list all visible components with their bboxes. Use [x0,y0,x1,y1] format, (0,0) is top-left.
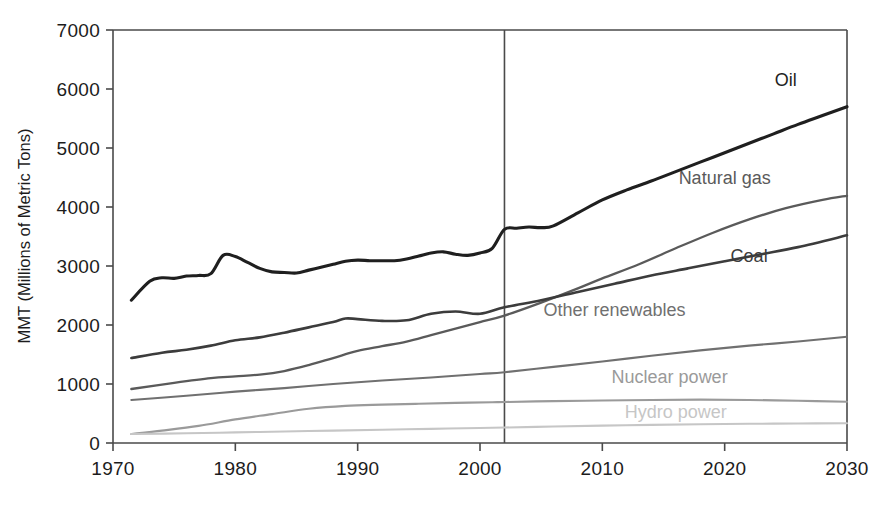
series-line-natural-gas [131,196,847,389]
x-tick-label: 1970 [91,458,134,479]
series-label-group: OilNatural gasCoalOther renewablesNuclea… [544,70,797,422]
y-tick-label: 2000 [57,315,100,336]
series-label-other-renewables: Other renewables [544,300,686,320]
y-tick-label: 4000 [57,197,100,218]
x-tick-label: 2030 [825,458,868,479]
y-tick-label: 7000 [57,20,100,41]
y-axis-group: 01000200030004000500060007000 [57,20,113,454]
series-label-nuclear-power: Nuclear power [612,367,728,387]
y-tick-group: 01000200030004000500060007000 [57,20,113,454]
x-tick-label: 1990 [336,458,379,479]
series-group [131,107,847,434]
series-line-oil [131,107,847,301]
series-line-other-renewables [131,337,847,400]
series-label-oil: Oil [775,70,797,90]
series-label-coal: Coal [731,246,768,266]
chart-canvas: 01000200030004000500060007000 1970198019… [0,0,883,508]
x-axis-group: 1970198019902000201020202030 [91,443,868,479]
y-tick-label: 6000 [57,79,100,100]
y-tick-label: 5000 [57,138,100,159]
series-label-natural-gas: Natural gas [679,168,771,188]
series-line-nuclear-power [131,400,847,434]
plot-frame [113,30,847,443]
y-tick-label: 3000 [57,256,100,277]
x-tick-label: 2000 [458,458,501,479]
y-tick-label: 1000 [57,374,100,395]
x-tick-label: 2010 [581,458,624,479]
y-axis-title: MMT (Millions of Metric Tons) [15,129,33,344]
y-tick-label: 0 [89,433,100,454]
series-label-hydro-power: Hydro power [625,402,727,422]
x-tick-group: 1970198019902000201020202030 [91,443,868,479]
x-tick-label: 2020 [703,458,746,479]
x-tick-label: 1980 [214,458,257,479]
energy-consumption-chart: 01000200030004000500060007000 1970198019… [0,0,883,508]
series-line-hydro-power [131,423,847,434]
